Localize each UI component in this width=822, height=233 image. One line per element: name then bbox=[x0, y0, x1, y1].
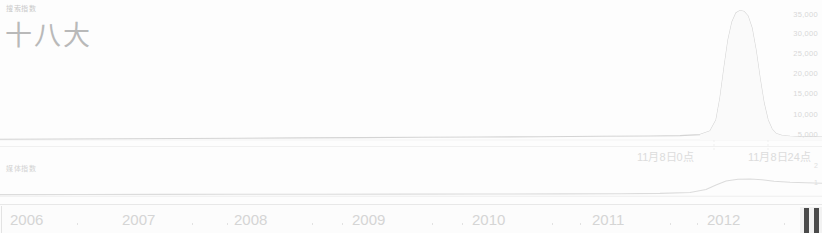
timeline-range-selector[interactable]: 2006 2007 2008 2009 2010 2011 2012 bbox=[0, 204, 822, 233]
search-index-line bbox=[0, 11, 822, 140]
timeline-tick bbox=[670, 223, 671, 225]
chart-divider bbox=[0, 146, 822, 147]
timeline-tick bbox=[312, 223, 313, 225]
timeline-tick bbox=[552, 223, 553, 225]
y-tick-30000: 30,000 bbox=[778, 29, 818, 38]
media-index-line bbox=[0, 179, 822, 195]
timeline-tick bbox=[342, 223, 343, 225]
y-tick-15000: 15,000 bbox=[778, 89, 818, 98]
y-tick-5000: 5,000 bbox=[778, 130, 818, 139]
timeline-tick bbox=[432, 223, 433, 225]
timeline-tick bbox=[580, 223, 581, 225]
timeline-year-2007[interactable]: 2007 bbox=[122, 211, 155, 228]
timeline-track[interactable]: 2006 2007 2008 2009 2010 2011 2012 bbox=[1, 206, 822, 233]
media-y-tick-high: 2 bbox=[814, 162, 818, 169]
timeline-tick bbox=[784, 223, 785, 225]
timeline-year-2006[interactable]: 2006 bbox=[10, 211, 43, 228]
y-tick-35000: 35,000 bbox=[778, 10, 818, 19]
timeline-range-handle[interactable] bbox=[800, 207, 822, 233]
y-axis: 35,000 30,000 25,000 20,000 15,000 10,00… bbox=[776, 0, 820, 150]
search-index-plot bbox=[0, 0, 822, 150]
timeline-tick bbox=[697, 223, 698, 225]
timeline-top-strip bbox=[0, 196, 822, 197]
media-y-tick-low: 1 bbox=[814, 179, 818, 186]
y-tick-20000: 20,000 bbox=[778, 69, 818, 78]
timeline-year-2010[interactable]: 2010 bbox=[472, 211, 505, 228]
timeline-tick bbox=[77, 223, 78, 225]
timeline-year-2011[interactable]: 2011 bbox=[592, 211, 624, 228]
timeline-year-2008[interactable]: 2008 bbox=[234, 211, 267, 228]
timeline-tick bbox=[462, 223, 463, 225]
y-tick-10000: 10,000 bbox=[778, 110, 818, 119]
range-handle-grip-left[interactable] bbox=[804, 208, 809, 233]
timeline-year-2009[interactable]: 2009 bbox=[352, 211, 385, 228]
y-tick-25000: 25,000 bbox=[778, 49, 818, 58]
baidu-index-trend-page: 搜索指数 十八大 35,000 30,000 25,000 20,000 15,… bbox=[0, 0, 822, 233]
search-index-chart: 搜索指数 十八大 35,000 30,000 25,000 20,000 15,… bbox=[0, 0, 822, 150]
timeline-tick bbox=[227, 223, 228, 225]
timeline-tick bbox=[192, 223, 193, 225]
range-handle-grip-right[interactable] bbox=[814, 208, 819, 233]
timeline-year-2012[interactable]: 2012 bbox=[707, 211, 740, 228]
